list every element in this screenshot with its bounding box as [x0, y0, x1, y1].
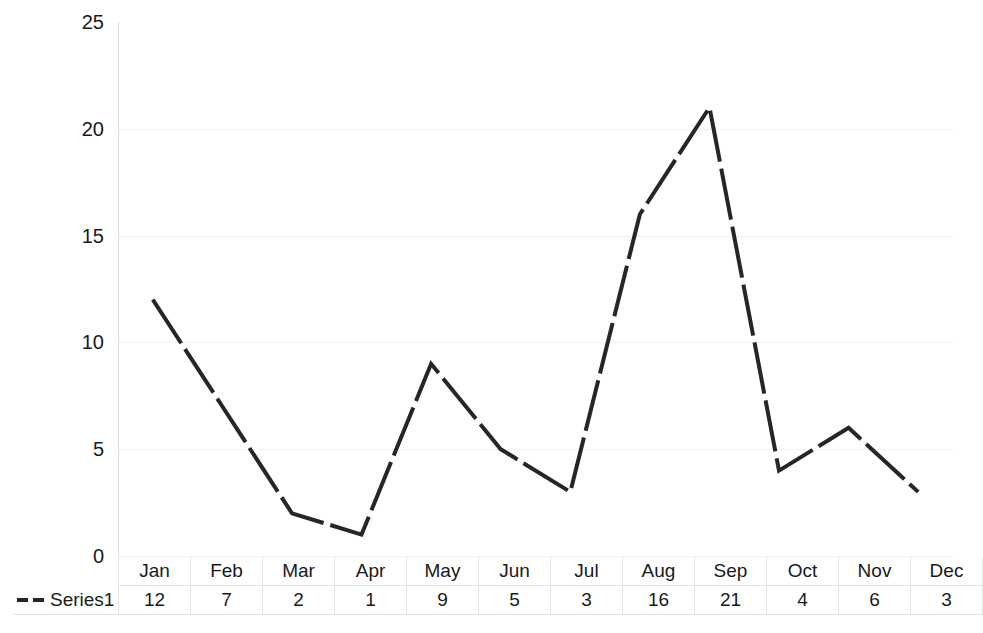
- y-tick-label-25: 25: [18, 12, 118, 32]
- table-cell-feb: 7: [191, 586, 263, 615]
- y-tick-label-5: 5: [18, 439, 118, 459]
- data-table: JanFebMarAprMayJunJulAugSepOctNovDec Ser…: [13, 557, 983, 615]
- table-col-header-nov: Nov: [839, 557, 911, 586]
- table-col-header-may: May: [407, 557, 479, 586]
- y-tick-label-10: 10: [18, 332, 118, 352]
- table-cell-aug: 16: [623, 586, 695, 615]
- y-axis-tick-labels: 2520151050: [0, 0, 118, 633]
- table-col-header-sep: Sep: [695, 557, 767, 586]
- series1-line: [118, 22, 953, 556]
- table-cell-mar: 2: [263, 586, 335, 615]
- table-col-header-jun: Jun: [479, 557, 551, 586]
- table-col-header-mar: Mar: [263, 557, 335, 586]
- plot-area: [118, 22, 953, 556]
- table-cell-jun: 5: [479, 586, 551, 615]
- table-col-header-oct: Oct: [767, 557, 839, 586]
- table-cell-jan: 12: [119, 586, 191, 615]
- table-header-corner: [13, 557, 119, 586]
- table-col-header-apr: Apr: [335, 557, 407, 586]
- table-cell-sep: 21: [695, 586, 767, 615]
- table-col-header-jul: Jul: [551, 557, 623, 586]
- table-cell-apr: 1: [335, 586, 407, 615]
- table-cell-may: 9: [407, 586, 479, 615]
- dashed-line-icon: [17, 598, 44, 602]
- legend-series1[interactable]: Series1: [13, 586, 119, 615]
- table-col-header-jan: Jan: [119, 557, 191, 586]
- y-tick-label-15: 15: [18, 226, 118, 246]
- table-cell-dec: 3: [911, 586, 983, 615]
- table-cell-oct: 4: [767, 586, 839, 615]
- table-row: Series1 127219531621463: [13, 586, 983, 615]
- legend-series1-label: Series1: [50, 590, 114, 609]
- table-cell-jul: 3: [551, 586, 623, 615]
- table-cell-nov: 6: [839, 586, 911, 615]
- table-col-header-feb: Feb: [191, 557, 263, 586]
- table-col-header-aug: Aug: [623, 557, 695, 586]
- table-col-header-dec: Dec: [911, 557, 983, 586]
- table-header-row: JanFebMarAprMayJunJulAugSepOctNovDec: [13, 557, 983, 586]
- y-tick-label-20: 20: [18, 119, 118, 139]
